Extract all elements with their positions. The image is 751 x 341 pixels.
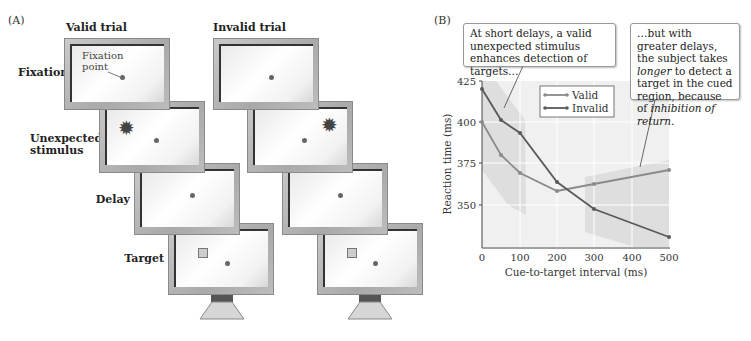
svg-text:400: 400 — [622, 252, 641, 263]
x-axis-label: Cue-to-target interval (ms) — [505, 266, 648, 278]
column-header-valid: Valid trial — [66, 21, 127, 34]
row-label-delay: Delay — [90, 194, 130, 206]
svg-text:375: 375 — [457, 158, 476, 169]
starburst-stimulus-icon: ✹ — [118, 118, 135, 138]
monitor-screen: ✹ — [105, 107, 199, 165]
monitor-valid-delay — [134, 163, 240, 235]
starburst-stimulus-icon: ✹ — [321, 115, 338, 135]
fixation-dot-icon — [120, 75, 125, 80]
fixation-label-line: Fixation — [82, 50, 123, 61]
row-label-target: Target — [124, 253, 164, 265]
monitor-stand-icon — [346, 295, 394, 322]
callout-text: . — [671, 115, 674, 127]
svg-text:400: 400 — [457, 117, 476, 128]
target-square-icon — [198, 248, 208, 258]
callout-text: …but with greater delays, the subject ta… — [637, 27, 728, 64]
row-label-line: Target — [124, 253, 164, 265]
monitor-invalid-delay — [282, 163, 388, 235]
row-label-line: Fixation — [18, 67, 60, 79]
monitor-screen: ✹ — [253, 107, 347, 165]
fixation-point-label: Fixation point — [82, 50, 123, 72]
svg-text:200: 200 — [547, 252, 566, 263]
legend-valid: Valid — [571, 89, 599, 101]
monitor-invalid-fixation — [213, 38, 319, 110]
y-axis-label: Reaction time (ms) — [441, 114, 453, 215]
fixation-dot-icon — [302, 138, 307, 143]
x-tick-labels: 0 100 200 300 400 500 — [479, 252, 679, 263]
column-header-invalid: Invalid trial — [213, 21, 286, 34]
legend-invalid: Invalid — [572, 102, 609, 114]
monitor-screen — [174, 229, 268, 287]
monitor-invalid-unexpected-stimulus: ✹ — [247, 101, 353, 173]
monitor-screen: Fixation point — [70, 44, 164, 102]
svg-text:100: 100 — [510, 252, 529, 263]
legend: Valid Invalid — [540, 86, 614, 117]
monitor-screen — [323, 229, 417, 287]
monitor-stand-icon — [198, 295, 246, 322]
fixation-dot-icon — [190, 193, 195, 198]
callout-emphasis: longer — [637, 65, 671, 77]
target-square-icon — [347, 248, 357, 258]
svg-text:425: 425 — [457, 76, 476, 87]
monitor-screen — [219, 44, 313, 102]
monitor-valid-unexpected-stimulus: ✹ — [99, 101, 205, 173]
fixation-dot-icon — [338, 193, 343, 198]
svg-text:350: 350 — [457, 200, 476, 211]
svg-text:500: 500 — [659, 252, 678, 263]
panel-a-label: (A) — [8, 14, 25, 27]
row-label-unexpected-stimulus: Unexpected stimulus — [30, 133, 94, 157]
y-tick-labels: 425 400 375 350 — [457, 76, 476, 211]
fixation-dot-icon — [373, 261, 378, 266]
monitor-screen — [288, 169, 382, 227]
monitor-screen — [140, 169, 234, 227]
row-label-line: stimulus — [30, 145, 94, 157]
row-label-line: Delay — [90, 194, 130, 206]
fixation-dot-icon — [225, 261, 230, 266]
row-label-fixation: Fixation — [18, 67, 60, 79]
callout-long-delays: …but with greater delays, the subject ta… — [630, 23, 740, 100]
svg-text:0: 0 — [479, 252, 485, 263]
monitor-valid-fixation: Fixation point — [64, 38, 170, 110]
fixation-dot-icon — [154, 138, 159, 143]
callout-short-delays: At short delays, a valid unexpected stim… — [463, 23, 616, 67]
svg-text:300: 300 — [584, 252, 603, 263]
fixation-dot-icon — [269, 75, 274, 80]
